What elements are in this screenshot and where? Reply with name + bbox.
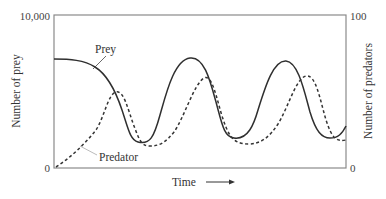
- predator-prey-chart: 10,000 0 100 0 Number of prey Number of …: [0, 0, 386, 199]
- y-right-tick-min: 0: [350, 162, 356, 174]
- plot-frame: [54, 15, 346, 168]
- y-left-tick-max: 10,000: [20, 10, 51, 22]
- predator-label: Predator: [99, 151, 138, 163]
- y-right-axis-title: Number of predators: [362, 43, 375, 139]
- prey-leader-line: [93, 56, 106, 69]
- y-right-tick-max: 100: [350, 10, 367, 22]
- predator-leader-line: [80, 146, 97, 155]
- time-arrow-icon: [206, 180, 235, 185]
- y-left-axis-title: Number of prey: [10, 54, 23, 128]
- x-axis-title: Time: [172, 176, 196, 188]
- prey-line: [54, 58, 346, 143]
- prey-label: Prey: [95, 43, 116, 56]
- y-left-tick-min: 0: [45, 162, 51, 174]
